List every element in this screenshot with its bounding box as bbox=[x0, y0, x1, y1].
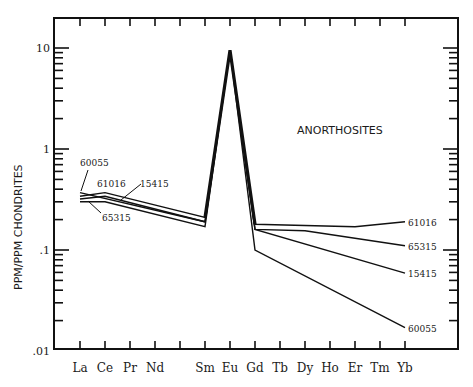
leader-line-left-65315 bbox=[88, 201, 101, 213]
x-tick-label-pr: Pr bbox=[123, 361, 137, 375]
x-tick-labels: LaCePrNdSmEuGdTbDyHoErTmYb bbox=[72, 361, 413, 375]
annotation-anorthosites: ANORTHOSITES bbox=[297, 124, 383, 137]
series-label-left-65315: 65315 bbox=[102, 213, 131, 223]
ree-chart: 101.1.01 LaCePrNdSmEuGdTbDyHoErTmYb 6005… bbox=[0, 0, 473, 387]
series-label-left-15415: 15415 bbox=[140, 179, 169, 189]
series-line-60055 bbox=[80, 50, 405, 328]
series-label-left-60055: 60055 bbox=[80, 158, 109, 168]
x-tick-label-dy: Dy bbox=[297, 361, 314, 375]
series-label-right-60055: 60055 bbox=[408, 324, 437, 334]
y-axis-title: PPM/PPM CHONDRITES bbox=[12, 164, 25, 290]
y-tick-label: 10 bbox=[36, 42, 50, 55]
x-tick-label-la: La bbox=[72, 361, 87, 375]
series-label-right-15415: 15415 bbox=[408, 269, 437, 279]
y-tick-label: 1 bbox=[43, 143, 50, 156]
series-lines bbox=[80, 50, 405, 328]
x-tick-label-tb: Tb bbox=[272, 361, 288, 375]
x-tick-label-er: Er bbox=[348, 361, 363, 375]
x-tick-label-tm: Tm bbox=[370, 361, 390, 375]
y-tick-label: .01 bbox=[33, 345, 51, 358]
leader-line-left-60055 bbox=[81, 170, 88, 191]
x-tick-label-eu: Eu bbox=[222, 361, 239, 375]
series-label-right-61016: 61016 bbox=[408, 218, 437, 228]
series-label-left-61016: 61016 bbox=[97, 179, 126, 189]
y-tick-label: .1 bbox=[40, 244, 51, 257]
series-label-right-65315: 65315 bbox=[408, 242, 437, 252]
eu-anomaly-spike bbox=[205, 50, 255, 224]
x-tick-label-yb: Yb bbox=[396, 361, 413, 375]
x-tick-label-ce: Ce bbox=[97, 361, 113, 375]
x-tick-label-nd: Nd bbox=[146, 361, 165, 375]
series-labels: 6005560055610166101615415154156531565315 bbox=[80, 158, 437, 334]
x-tick-label-ho: Ho bbox=[321, 361, 339, 375]
y-tick-labels: 101.1.01 bbox=[33, 42, 51, 358]
x-tick-label-sm: Sm bbox=[195, 361, 215, 375]
x-tick-label-gd: Gd bbox=[246, 361, 264, 375]
series-line-15415 bbox=[80, 50, 405, 273]
